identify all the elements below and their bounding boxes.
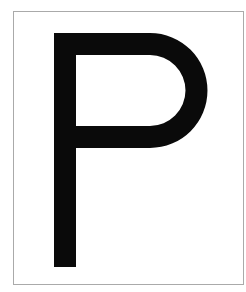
letter-p-glyph — [0, 0, 246, 292]
